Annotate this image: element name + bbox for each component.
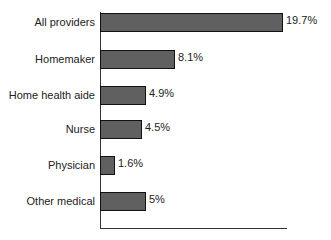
bar <box>100 192 146 211</box>
value-label: 5% <box>149 193 165 206</box>
category-label: Home health aide <box>9 89 95 102</box>
category-label: Physician <box>48 159 95 172</box>
bar <box>100 13 283 32</box>
value-label: 19.7% <box>286 14 317 27</box>
category-label: Nurse <box>66 123 95 136</box>
value-label: 4.9% <box>149 87 174 100</box>
value-label: 8.1% <box>178 51 203 64</box>
bar <box>100 86 146 105</box>
bar-chart: All providers19.7%Homemaker8.1%Home heal… <box>0 0 331 240</box>
category-label: All providers <box>34 16 95 29</box>
x-axis-line <box>100 228 287 229</box>
category-label: Other medical <box>27 195 95 208</box>
value-label: 1.6% <box>118 157 143 170</box>
category-label: Homemaker <box>35 53 95 66</box>
value-label: 4.5% <box>145 121 170 134</box>
bar <box>100 50 175 69</box>
bar <box>100 156 115 175</box>
bar <box>100 120 142 139</box>
